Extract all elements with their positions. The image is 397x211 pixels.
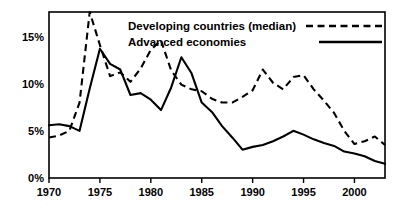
x-tick-label: 1990	[240, 186, 264, 198]
y-tick-label: 0%	[28, 172, 44, 184]
x-tick-label: 2000	[342, 186, 366, 198]
x-tick-label: 1995	[291, 186, 315, 198]
y-tick-label: 5%	[28, 125, 44, 137]
series-line-advanced	[49, 49, 385, 164]
y-tick-label: 10%	[22, 78, 44, 90]
y-axis-tick-labels: 0%5%10%15%	[22, 31, 44, 184]
chart-legend: Developing countries (median)Advanced ec…	[128, 20, 382, 48]
chart-container: 0%5%10%15% 1970197519801985199019952000 …	[0, 0, 397, 211]
x-tick-label: 1980	[139, 186, 163, 198]
y-tick-label: 15%	[22, 31, 44, 43]
inflation-line-chart: 0%5%10%15% 1970197519801985199019952000 …	[0, 0, 397, 211]
x-tick-label: 1975	[88, 186, 112, 198]
x-tick-label: 1985	[189, 186, 213, 198]
legend-label: Developing countries (median)	[128, 20, 296, 32]
series-layer	[49, 12, 385, 164]
x-axis-tick-labels: 1970197519801985199019952000	[37, 186, 367, 198]
legend-label: Advanced economies	[128, 36, 246, 48]
x-tick-label: 1970	[37, 186, 61, 198]
